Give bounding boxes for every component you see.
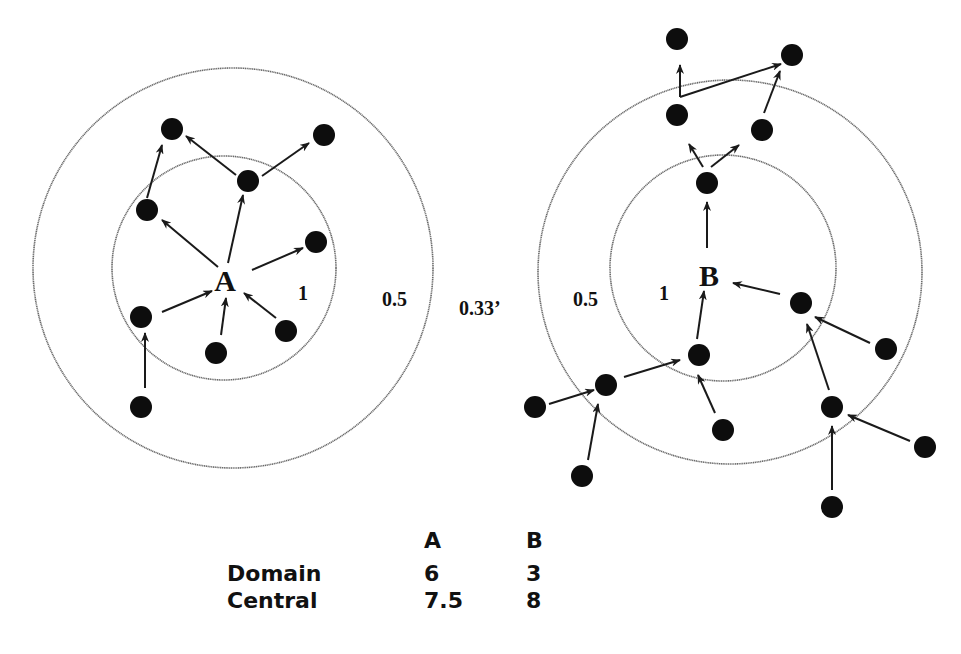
actor-node	[790, 292, 812, 314]
tie-arrow	[697, 291, 704, 339]
tie-arrow	[221, 298, 226, 335]
actor-a-network: A10.5	[33, 68, 433, 468]
inner-ring-b	[610, 155, 836, 381]
actor-node	[666, 104, 688, 126]
tie-arrow	[549, 390, 594, 404]
actor-node	[237, 170, 259, 192]
tie-arrow	[733, 283, 780, 294]
actor-node	[275, 320, 297, 342]
tie-arrow	[244, 293, 276, 318]
actor-node	[821, 496, 843, 518]
actor-node	[712, 419, 734, 441]
tie-arrow	[147, 145, 162, 198]
tie-arrow	[162, 291, 212, 312]
inner-ring-weight-label: 1	[659, 282, 669, 304]
actor-node	[524, 396, 546, 418]
actor-node	[130, 306, 152, 328]
outer-ring-b	[538, 80, 922, 464]
actor-node	[205, 342, 227, 364]
outer-ring-weight-label: 0.5	[382, 288, 407, 310]
tie-arrow	[680, 64, 781, 97]
actor-node	[161, 118, 183, 140]
ego-label-a: A	[214, 264, 236, 297]
tie-arrow	[588, 404, 598, 460]
actor-node	[305, 231, 327, 253]
actor-node	[313, 124, 335, 146]
tie-arrow	[689, 144, 703, 167]
actor-node	[666, 28, 688, 50]
actor-node	[781, 44, 803, 66]
actor-node	[751, 119, 773, 141]
actor-node	[875, 338, 897, 360]
tie-arrow	[815, 317, 870, 343]
tie-arrow	[807, 324, 829, 390]
actor-node	[595, 374, 617, 396]
actor-node	[688, 344, 710, 366]
ego-label-b: B	[699, 259, 719, 292]
gap-ring-label: 0.33’	[459, 297, 501, 319]
actor-b-network: B10.5	[524, 28, 936, 518]
tie-arrow	[262, 143, 309, 176]
actor-node	[821, 396, 843, 418]
inner-ring-weight-label: 1	[298, 282, 308, 304]
actor-node	[136, 199, 158, 221]
outer-ring-weight-label: 0.5	[573, 288, 598, 310]
tie-arrow	[162, 220, 218, 267]
actor-node	[914, 436, 936, 458]
tie-arrow	[252, 248, 303, 270]
tie-arrow	[764, 71, 780, 113]
tie-arrow	[228, 195, 243, 263]
tie-arrow	[848, 415, 910, 441]
actor-node	[696, 172, 718, 194]
actor-node	[130, 396, 152, 418]
network-diagram: A10.5 B10.5 0.33’	[0, 0, 961, 654]
actor-node	[571, 465, 593, 487]
